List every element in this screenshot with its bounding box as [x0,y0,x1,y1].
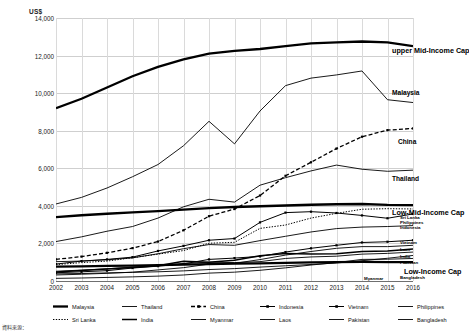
series-line [56,262,413,267]
x-tick-label: 2013 [329,284,343,291]
legend-label: Bangladesh [417,317,447,323]
y-axis-tick-labels: 02,0004,0006,0008,00010,00012,00014,000 [0,18,54,281]
y-tick-label: 4,000 [2,202,54,209]
callout-label: Pakistan [400,261,418,265]
callout-label: Thailand [392,176,419,183]
legend-item: Philippines [397,303,464,310]
legend-item: India [121,316,188,323]
series-marker [233,208,235,210]
series-marker [386,217,388,219]
series-marker [361,214,363,216]
series-marker [233,257,235,259]
series-marker [106,270,108,272]
x-tick-label: 2014 [355,284,369,291]
legend-swatch-icon [121,316,138,323]
series-marker [131,247,133,249]
series-marker [386,241,388,243]
x-tick-label: 2011 [279,284,293,291]
series-marker [259,194,261,196]
series-marker [131,256,133,258]
y-tick-label: 2,000 [2,240,54,247]
legend-item: Laos [259,316,326,323]
y-tick-label: 6,000 [2,165,54,172]
series-line [56,209,413,265]
series-marker [335,212,337,214]
legend-swatch-icon [121,303,138,310]
legend-label: Laos [279,317,291,323]
series-marker [56,258,57,260]
callout-label: Laos [400,248,410,252]
x-tick-label: 2010 [253,284,267,291]
legend-swatch-icon [190,303,207,310]
x-tick-label: 2005 [125,284,139,291]
series-marker [310,247,312,249]
y-tick-label: 14,000 [2,15,54,22]
legend-swatch-icon [259,316,276,323]
series-marker [284,175,286,177]
chart-root: US$ 02,0004,0006,0008,00010,00012,00014,… [0,0,469,334]
series-marker [182,245,184,247]
series-marker [208,239,210,241]
legend-swatch-icon [328,303,345,310]
legend-swatch-icon [190,316,207,323]
callout-label: Malaysia [392,90,420,97]
legend-item: Malaysia [52,303,119,310]
series-marker [106,258,108,260]
series-marker [335,147,337,149]
series-marker [157,250,159,252]
series-marker [208,258,210,260]
x-tick-label: 2007 [176,284,190,291]
series-marker [412,127,413,129]
legend-swatch-icon [397,303,414,310]
series-marker [361,136,363,138]
legend-item: Sri Lanka [52,316,119,323]
series-marker [335,244,337,246]
series-marker [106,252,108,254]
callout-label: Myanmar [364,277,383,281]
x-tick-label: 2004 [100,284,114,291]
legend-label: Malaysia [72,304,94,310]
x-tick-label: 2009 [227,284,241,291]
series-marker [80,255,82,257]
legend-label: Indonesia [279,304,303,310]
series-marker [182,229,184,231]
legend-label: China [210,304,225,310]
series-marker [208,215,210,217]
callout-label: Bangladesh [400,276,425,280]
legend-item: Pakistan [328,316,395,323]
legend-label: India [141,317,153,323]
legend-label: Thailand [141,304,162,310]
legend-item: Thailand [121,303,188,310]
legend-item: Myanmar [190,316,257,323]
legend-swatch-icon [52,316,69,323]
legend-item: Bangladesh [397,316,464,323]
legend-item: Vietnam [328,303,395,310]
x-tick-label: 2008 [202,284,216,291]
series-lines [56,18,413,281]
legend-label: Sri Lanka [72,317,96,323]
series-marker [310,211,312,213]
x-axis-tick-labels: 2002200320042005200620072008200920102011… [56,284,413,296]
legend-label: Myanmar [210,317,233,323]
series-marker [157,240,159,242]
x-tick-label: 2003 [74,284,88,291]
y-tick-label: 0 [2,278,54,285]
callout-label: Indonesia [400,226,421,230]
x-tick-label: 2016 [406,284,420,291]
legend-swatch-icon [397,316,414,323]
legend-label: Vietnam [348,304,368,310]
x-tick-label: 2006 [151,284,165,291]
series-marker [361,241,363,243]
legend-label: Pakistan [348,317,369,323]
series-marker [284,212,286,214]
legend-label: Philippines [417,304,444,310]
y-tick-label: 12,000 [2,52,54,59]
y-tick-label: 8,000 [2,127,54,134]
callout-label: Vietnam [400,241,417,245]
series-line [56,128,413,259]
x-tick-label: 2002 [49,284,63,291]
legend-item: Indonesia [259,303,326,310]
series-marker [80,260,82,262]
legend-swatch-icon [259,303,276,310]
legend-item: China [190,303,257,310]
